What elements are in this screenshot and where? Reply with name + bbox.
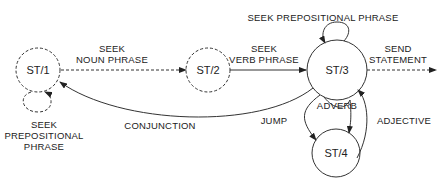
transition-st3-self: SEEK PREPOSITIONAL PHRASE: [248, 12, 399, 43]
svg-text:SEEK: SEEK: [251, 43, 278, 54]
svg-text:SEEK: SEEK: [31, 119, 58, 130]
svg-text:CONJUNCTION: CONJUNCTION: [124, 120, 195, 131]
state-st1: ST/1: [16, 48, 60, 92]
state-st3-label: ST/3: [325, 64, 348, 76]
state-diagram: ST/1 SEEK PREPOSITIONAL PHRASE SEEK NOUN…: [0, 0, 446, 188]
svg-text:PHRASE: PHRASE: [24, 141, 64, 152]
svg-text:ADJECTIVE: ADJECTIVE: [377, 115, 431, 126]
state-st2-label: ST/2: [196, 64, 219, 76]
transition-st1-st2: SEEK NOUN PHRASE: [61, 43, 186, 70]
transition-st2-st3: SEEK VERB PHRASE: [229, 43, 306, 70]
transition-st4-st3: ADJECTIVE: [357, 90, 431, 158]
svg-text:VERB PHRASE: VERB PHRASE: [229, 54, 299, 65]
transition-st3-st4-jump: JUMP: [261, 95, 320, 140]
state-st1-label: ST/1: [26, 64, 49, 76]
svg-text:SEEK PREPOSITIONAL PHRASE: SEEK PREPOSITIONAL PHRASE: [248, 12, 399, 23]
svg-text:SEEK: SEEK: [99, 43, 126, 54]
state-st3: ST/3: [307, 40, 367, 100]
state-st4-label: ST/4: [324, 147, 347, 159]
transition-st3-out: SEND STATEMENT: [367, 43, 436, 70]
transition-st3-st4-adverb: ADVERB: [317, 97, 357, 133]
svg-text:STATEMENT: STATEMENT: [369, 54, 427, 65]
transition-st1-self: SEEK PREPOSITIONAL PHRASE: [4, 92, 83, 152]
svg-text:NOUN PHRASE: NOUN PHRASE: [76, 54, 148, 65]
svg-text:SEND: SEND: [384, 43, 411, 54]
state-st4: ST/4: [312, 129, 360, 177]
state-st2: ST/2: [186, 48, 230, 92]
svg-text:ADVERB: ADVERB: [317, 100, 357, 111]
svg-text:JUMP: JUMP: [261, 115, 288, 126]
svg-text:PREPOSITIONAL: PREPOSITIONAL: [4, 130, 83, 141]
